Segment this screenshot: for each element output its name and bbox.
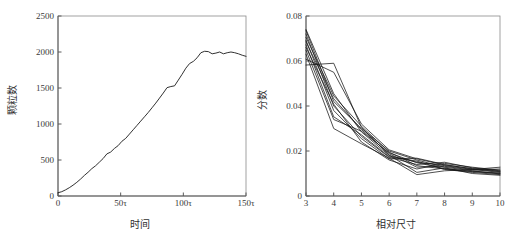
svg-text:8: 8 — [442, 198, 447, 208]
data-curve — [306, 37, 500, 173]
left-axis-lines — [58, 16, 246, 196]
svg-text:4: 4 — [331, 198, 336, 208]
data-curve — [306, 31, 500, 174]
left-x-tick-labels: 050τ100τ150τ — [56, 198, 255, 208]
svg-text:0: 0 — [50, 191, 55, 201]
svg-text:0.02: 0.02 — [286, 146, 302, 156]
svg-text:0.08: 0.08 — [286, 11, 302, 21]
right-y-tick-labels: 00.020.040.060.08 — [286, 11, 302, 201]
data-curve — [306, 59, 500, 171]
svg-text:50τ: 50τ — [114, 198, 127, 208]
left-data-curves — [58, 51, 246, 192]
svg-text:3: 3 — [304, 198, 309, 208]
data-curve — [306, 54, 500, 174]
left-y-axis-title: 颗粒数 — [6, 85, 18, 115]
svg-text:0.04: 0.04 — [286, 101, 302, 111]
right-x-axis-title: 相对尺寸 — [376, 218, 416, 230]
left-y-tick-labels: 05001000150020002500 — [36, 11, 55, 201]
data-curve — [58, 51, 246, 192]
left-chart-panel: 颗粒数 时间 05001000150020002500 050τ100τ150τ — [0, 0, 256, 237]
svg-text:5: 5 — [359, 198, 364, 208]
right-x-tick-labels: 345678910 — [304, 198, 505, 208]
svg-text:9: 9 — [470, 198, 475, 208]
right-chart-panel: 分数 相对尺寸 00.020.040.060.08 345678910 — [256, 0, 512, 237]
svg-text:1500: 1500 — [36, 83, 55, 93]
right-y-axis-title: 分数 — [256, 90, 268, 110]
svg-text:7: 7 — [415, 198, 420, 208]
left-chart-svg: 颗粒数 时间 05001000150020002500 050τ100τ150τ — [0, 0, 256, 237]
svg-text:10: 10 — [496, 198, 506, 208]
svg-text:2000: 2000 — [36, 47, 55, 57]
left-x-axis-title: 时间 — [130, 218, 150, 230]
svg-text:0: 0 — [56, 198, 61, 208]
svg-text:500: 500 — [41, 155, 55, 165]
svg-text:2500: 2500 — [36, 11, 55, 21]
svg-text:1000: 1000 — [36, 119, 55, 129]
svg-text:150τ: 150τ — [237, 198, 255, 208]
right-data-curves — [306, 30, 500, 176]
svg-text:100τ: 100τ — [175, 198, 193, 208]
svg-text:0.06: 0.06 — [286, 56, 302, 66]
right-chart-svg: 分数 相对尺寸 00.020.040.060.08 345678910 — [256, 0, 513, 237]
svg-text:6: 6 — [387, 198, 392, 208]
svg-text:0: 0 — [298, 191, 303, 201]
data-curve — [306, 30, 500, 173]
figure-container: 颗粒数 时间 05001000150020002500 050τ100τ150τ… — [0, 0, 513, 237]
